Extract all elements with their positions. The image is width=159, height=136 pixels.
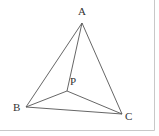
triangle-diagram: A B C P <box>0 0 159 136</box>
label-a: A <box>78 5 86 17</box>
label-b: B <box>13 101 20 113</box>
label-c: C <box>125 110 132 122</box>
segment-ca <box>82 23 122 114</box>
segment-ab <box>26 23 82 107</box>
edges <box>26 23 122 114</box>
label-p: P <box>70 75 76 87</box>
segment-pb <box>26 91 67 107</box>
